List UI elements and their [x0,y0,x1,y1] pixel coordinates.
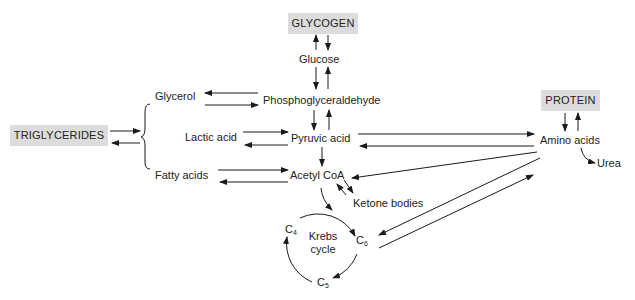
arrow-c6-to-amino [379,175,533,248]
urea-label: Urea [597,157,621,170]
glycerol-label: Glycerol [155,90,195,103]
arrow-ketone-to-acetyl [337,184,346,195]
pyruvic-acid-label: Pyruvic acid [291,132,350,145]
arrow-acetyl-to-krebs [321,188,332,210]
fatty-acids-label: Fatty acids [155,169,208,182]
glycogen-box: GLYCOGEN [288,13,358,34]
krebs-label-line1: Krebs [306,230,340,243]
phosphoglyceraldehyde-label: Phosphoglyceraldehyde [263,94,380,107]
c6-label: C6 [356,234,368,250]
acetyl-coa-label: Acetyl CoA [290,169,344,182]
arc-c6-to-c5 [333,254,357,278]
brace [141,104,150,169]
triglycerides-box: TRIGLYCERIDES [10,125,108,146]
glucose-label: Glucose [299,53,339,66]
arrow-amino-to-urea [581,148,595,163]
arrow-acetyl-to-ketone [344,180,353,193]
c4-label: C4 [285,223,297,239]
krebs-label-line2: cycle [306,243,340,256]
arrow-amino-to-acetyl [352,152,537,178]
ketone-bodies-label: Ketone bodies [353,197,423,210]
lactic-acid-label: Lactic acid [185,131,237,144]
metabolism-diagram: GLYCOGEN TRIGLYCERIDES PROTEIN Glucose P… [0,0,635,300]
c5-label: C5 [317,276,329,292]
protein-box: PROTEIN [541,90,600,111]
amino-acids-label: Amino acids [540,134,600,147]
